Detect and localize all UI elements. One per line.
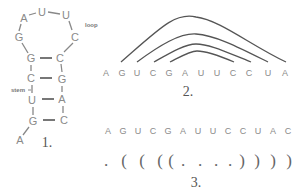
rna-secondary-structure-figure: A G U C G G A U U C C G A C loop stem 1. — [0, 0, 301, 192]
panel-3-caption: 3. — [191, 175, 202, 190]
base-pair-bonds — [40, 58, 55, 120]
nucleotide: U — [38, 6, 46, 18]
sequence-row: A G U C G A U U C C U A C — [105, 126, 292, 136]
base: U — [214, 68, 221, 78]
nucleotide: C — [71, 31, 79, 43]
structure-symbol: ) — [254, 151, 260, 170]
base: U — [255, 126, 262, 136]
base: A — [105, 126, 111, 136]
panel-3-dot-bracket: A G U C G A U U C C U A C . ( ( ( ( . — [104, 126, 292, 190]
base: A — [182, 68, 188, 78]
base: G — [165, 68, 172, 78]
structure-symbol: ) — [270, 151, 276, 170]
base: U — [195, 126, 202, 136]
base: U — [134, 68, 141, 78]
base: G — [119, 126, 126, 136]
base: U — [198, 68, 205, 78]
structure-symbol: ) — [286, 151, 292, 170]
base: G — [164, 126, 171, 136]
panel-2-caption: 2. — [183, 84, 194, 99]
nucleotides: A G U C G G A U U C C G A C — [15, 6, 79, 146]
base: U — [265, 68, 272, 78]
base: C — [240, 126, 247, 136]
structure-symbol: ( — [121, 151, 127, 170]
structure-symbol: . — [181, 151, 185, 170]
nucleotide: G — [15, 31, 24, 43]
nucleotide: C — [27, 72, 35, 84]
panel-1-caption: 1. — [42, 135, 53, 150]
arc-pair-5-10 — [170, 51, 234, 62]
nucleotide: G — [58, 73, 67, 85]
nucleotide: A — [20, 12, 28, 24]
stem-label: stem — [11, 87, 25, 93]
structure-symbol: ) — [239, 151, 245, 170]
sequence-row: A G U C G A U U C C U A C — [103, 68, 288, 78]
arcs — [121, 16, 286, 62]
structure-symbol: ( — [157, 151, 163, 170]
base: A — [103, 68, 109, 78]
loop-label: loop — [85, 22, 98, 28]
base: C — [285, 126, 292, 136]
nucleotide: G — [29, 115, 38, 127]
base: C — [150, 126, 157, 136]
structure-symbol: . — [198, 151, 202, 170]
panel-2-arc-diagram: A G U C G A U U C C U A C 2. — [103, 16, 288, 98]
base: C — [246, 68, 253, 78]
structure-symbol: . — [228, 151, 232, 170]
base: U — [135, 126, 142, 136]
arc-pair-3-12 — [137, 34, 268, 62]
base: A — [180, 126, 186, 136]
structure-symbol: ( — [139, 151, 145, 170]
dot-bracket-row: . ( ( ( ( . . . . ) ) ) ) — [104, 151, 292, 170]
nucleotide: G — [27, 52, 36, 64]
structure-symbol: ( — [168, 151, 174, 170]
panel-1-hairpin: A G U C G G A U U C C G A C loop stem 1. — [11, 6, 98, 150]
base: A — [270, 126, 276, 136]
base: G — [118, 68, 125, 78]
base: U — [210, 126, 217, 136]
nucleotide: U — [62, 9, 70, 21]
figure-svg: A G U C G G A U U C C G A C loop stem 1. — [0, 0, 301, 192]
structure-symbol: . — [104, 151, 108, 170]
structure-symbol: . — [214, 151, 218, 170]
base: C — [230, 68, 237, 78]
nucleotide: A — [58, 93, 66, 105]
nucleotide: A — [16, 134, 24, 146]
base: A — [282, 68, 288, 78]
nucleotide: U — [28, 94, 36, 106]
base: C — [150, 68, 157, 78]
nucleotide: C — [60, 114, 68, 126]
base: C — [225, 126, 232, 136]
nucleotide: C — [56, 52, 64, 64]
